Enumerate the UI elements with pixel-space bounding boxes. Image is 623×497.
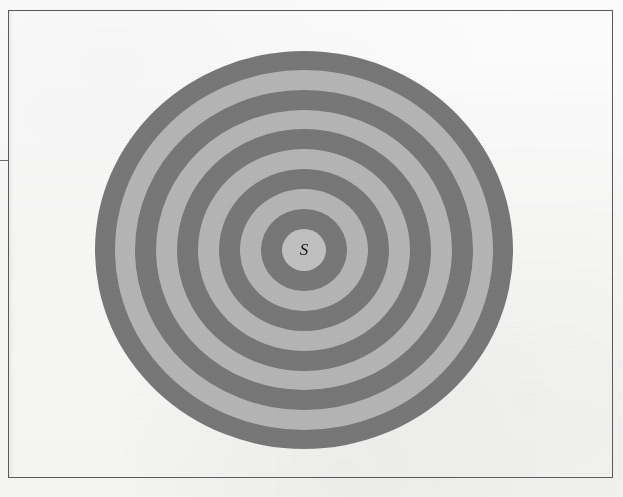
scanned-page: S [0,0,623,497]
rings-group [95,51,513,449]
ring-band-1 [282,229,326,271]
concentric-rings-figure [0,0,623,497]
rings-svg [0,0,623,497]
